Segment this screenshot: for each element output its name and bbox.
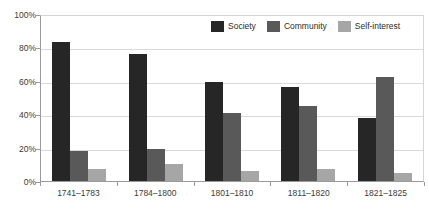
bar-community (299, 106, 317, 181)
bar-selfinterest (241, 171, 259, 181)
legend-item[interactable]: Community (267, 21, 327, 32)
bar-group (194, 16, 270, 181)
bar-group (117, 16, 193, 181)
legend-item[interactable]: Society (211, 21, 256, 32)
x-tick-mark (194, 182, 195, 186)
bar-group (41, 16, 117, 181)
bar-selfinterest (317, 169, 335, 181)
legend-swatch-icon (267, 21, 280, 32)
legend-label: Society (228, 21, 256, 31)
legend-item[interactable]: Self-interest (338, 21, 400, 32)
x-tick-mark (424, 182, 425, 186)
x-axis-label: 1741–1783 (40, 188, 117, 198)
bar-groups (41, 16, 423, 181)
x-tick-mark (347, 182, 348, 186)
bar-chart: 0%20%40%60%80%100% 1741–17831784–1800180… (0, 0, 429, 215)
bar-society (358, 118, 376, 181)
y-tick-label: 60% (0, 78, 36, 86)
legend-label: Community (284, 21, 327, 31)
y-axis: 0%20%40%60%80%100% (0, 15, 36, 182)
bar-community (223, 113, 241, 181)
chart-legend: SocietyCommunitySelf-interest (207, 16, 404, 36)
bar-community (70, 151, 88, 181)
y-tick-label: 100% (0, 11, 36, 19)
y-tick-label: 20% (0, 145, 36, 153)
legend-label: Self-interest (355, 21, 400, 31)
bar-group (347, 16, 423, 181)
legend-swatch-icon (211, 21, 224, 32)
x-axis-label: 1811–1820 (270, 188, 347, 198)
bar-selfinterest (394, 173, 412, 181)
y-tick-label: 40% (0, 111, 36, 119)
bar-community (376, 77, 394, 181)
x-axis-label: 1784–1800 (117, 188, 194, 198)
x-axis-ticks (40, 182, 424, 186)
bar-selfinterest (165, 164, 183, 181)
x-axis-label: 1821–1825 (347, 188, 424, 198)
x-axis-label: 1801–1810 (194, 188, 271, 198)
y-tick-label: 80% (0, 44, 36, 52)
x-tick-mark (117, 182, 118, 186)
x-tick-mark (270, 182, 271, 186)
bar-society (129, 54, 147, 181)
bar-community (147, 149, 165, 181)
bar-society (205, 82, 223, 181)
bar-selfinterest (88, 169, 106, 181)
bar-group (270, 16, 346, 181)
x-axis-labels: 1741–17831784–18001801–18101811–18201821… (40, 188, 424, 198)
y-tick-label: 0% (0, 178, 36, 186)
legend-swatch-icon (338, 21, 351, 32)
plot-area (40, 15, 424, 182)
bar-society (52, 42, 70, 181)
bar-society (281, 87, 299, 181)
x-tick-mark (40, 182, 41, 186)
